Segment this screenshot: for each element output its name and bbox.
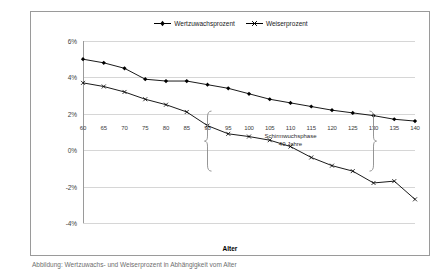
y-tick-label: 2% [68, 110, 77, 117]
data-point-marker [122, 66, 126, 70]
y-tick-label: -2% [66, 183, 77, 190]
y-tick-label: 0% [68, 147, 77, 154]
data-point-marker [226, 86, 230, 90]
chart-frame: Wertzuwachsprozent Weiserprozent 6%4%2%0… [30, 11, 430, 256]
series-line [83, 59, 415, 121]
annotation-line-2: 40 Jahre [231, 140, 351, 148]
data-point-marker [247, 92, 251, 96]
annotation-schirmwuchsphase: Schirmwuchsphase 40 Jahre [231, 132, 351, 148]
data-point-marker [164, 79, 168, 83]
x-axis-title: Alter [31, 245, 429, 252]
chart-page: Wertzuwachsprozent Weiserprozent 6%4%2%0… [0, 0, 439, 273]
figure-caption: Abbildung: Wertzuwachs- und Weiserprozen… [32, 261, 432, 268]
y-tick-label: 4% [68, 74, 77, 81]
gridline [83, 223, 415, 224]
data-point-marker [102, 61, 106, 65]
data-point-marker [143, 77, 147, 81]
annotation-brace [370, 111, 377, 171]
data-point-marker [288, 101, 292, 105]
annotation-brace [205, 111, 212, 171]
annotation-line-1: Schirmwuchsphase [231, 132, 351, 140]
y-tick-label: -4% [66, 220, 77, 227]
data-point-marker [81, 57, 85, 61]
data-point-marker [351, 111, 355, 115]
data-point-marker [330, 108, 334, 112]
data-point-marker [205, 83, 209, 87]
data-point-marker [268, 97, 272, 101]
data-point-marker [413, 119, 417, 123]
data-point-marker [309, 104, 313, 108]
y-tick-label: 6% [68, 38, 77, 45]
series-1 [81, 57, 417, 123]
data-point-marker [185, 79, 189, 83]
data-point-marker [392, 117, 396, 121]
